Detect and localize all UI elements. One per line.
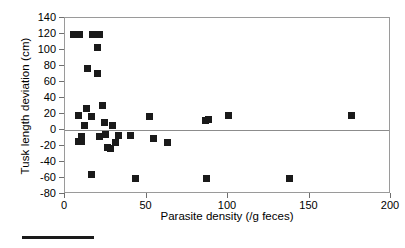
scatter-plot-figure: Tusk length deviation (cm) -80-60-40-200… [0, 0, 405, 248]
data-point [109, 122, 116, 129]
data-point [225, 112, 232, 119]
data-point [115, 132, 122, 139]
bottom-rule [22, 236, 94, 239]
data-point [84, 65, 91, 72]
y-tick-label: 0 [16, 124, 56, 135]
data-point [286, 175, 293, 182]
y-tick-label: -40 [16, 156, 56, 167]
data-point [83, 105, 90, 112]
y-tick-label: -20 [16, 140, 56, 151]
data-point [94, 44, 101, 51]
data-point [78, 138, 85, 145]
x-axis-title: Parasite density (/g feces) [64, 210, 390, 222]
y-tick-label: 140 [16, 12, 56, 23]
data-point [205, 116, 212, 123]
data-point [132, 175, 139, 182]
data-point [81, 122, 88, 129]
data-point [88, 171, 95, 178]
y-tick-label: 120 [16, 28, 56, 39]
data-point [146, 113, 153, 120]
data-point [127, 132, 134, 139]
data-point [164, 139, 171, 146]
data-point [101, 119, 108, 126]
data-point [96, 31, 103, 38]
y-tick-label: -60 [16, 172, 56, 183]
x-tick-mark [64, 193, 65, 198]
x-tick-mark [146, 193, 147, 198]
x-tick-mark [227, 193, 228, 198]
y-tick-label: 60 [16, 76, 56, 87]
y-tick-label: -80 [16, 188, 56, 199]
data-point [203, 175, 210, 182]
data-point [150, 135, 157, 142]
y-tick-label: 20 [16, 108, 56, 119]
x-tick-mark [309, 193, 310, 198]
data-point [88, 113, 95, 120]
data-point [99, 102, 106, 109]
plot-area [64, 17, 390, 193]
data-point [348, 112, 355, 119]
data-point [102, 131, 109, 138]
y-tick-label: 40 [16, 92, 56, 103]
data-point [94, 70, 101, 77]
data-point [76, 31, 83, 38]
zero-reference-line [65, 130, 389, 131]
y-tick-label: 100 [16, 44, 56, 55]
data-point [75, 112, 82, 119]
x-tick-mark [390, 193, 391, 198]
y-tick-label: 80 [16, 60, 56, 71]
data-point [107, 145, 114, 152]
